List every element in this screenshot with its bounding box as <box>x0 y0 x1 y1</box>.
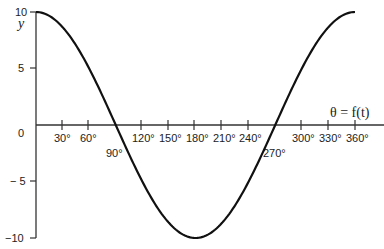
x-tick-label-210: 210° <box>213 132 236 144</box>
y-axis-label: y <box>16 16 25 31</box>
x-tick-label-270: 270° <box>263 147 286 159</box>
x-tick-label-360: 360° <box>346 132 369 144</box>
x-tick-label-150: 150° <box>159 132 182 144</box>
x-tick-label-300: 300° <box>292 132 315 144</box>
y-tick-label-neg5: − 5 <box>10 175 26 187</box>
y-tick-label-neg10: −10 <box>5 232 24 244</box>
x-tick-label-90: 90° <box>106 147 123 159</box>
x-tick-label-330: 330° <box>319 132 342 144</box>
x-tick-label-60: 60° <box>80 132 97 144</box>
x-tick-label-180: 180° <box>186 132 209 144</box>
origin-label: 0 <box>18 127 24 139</box>
x-axis-label: θ = f(t) <box>330 105 370 121</box>
x-tick-label-240: 240° <box>239 132 262 144</box>
y-ticks <box>30 12 36 238</box>
cosine-chart: 10 y 5 0 − 5 −10 30° 60° 90° 120° 150° 1… <box>0 0 384 249</box>
x-tick-label-30: 30° <box>54 132 71 144</box>
x-tick-label-120: 120° <box>132 132 155 144</box>
y-tick-label-5: 5 <box>18 62 24 74</box>
